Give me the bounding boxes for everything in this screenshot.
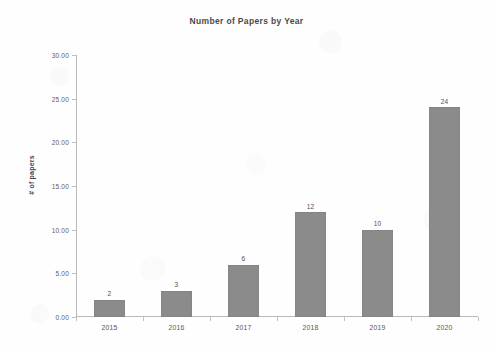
bar[interactable] <box>295 212 326 317</box>
y-axis-tick <box>72 273 76 274</box>
y-axis-line <box>76 55 77 317</box>
y-axis-tick <box>72 99 76 100</box>
y-axis-tick-label: 10.00 <box>52 226 69 233</box>
x-axis-tick <box>277 317 278 321</box>
y-axis-tick-label: 25.00 <box>52 95 69 102</box>
bar[interactable] <box>161 291 192 317</box>
y-axis-tick-label: 20.00 <box>52 139 69 146</box>
bar-group[interactable]: 3 <box>161 281 192 317</box>
bar[interactable] <box>228 265 259 317</box>
bar-value-label: 10 <box>374 220 382 227</box>
plot-area: 0.005.0010.0015.0020.0025.0030.00 236121… <box>76 55 478 317</box>
bar-value-label: 6 <box>242 255 246 262</box>
y-axis-tick-label: 15.00 <box>52 183 69 190</box>
x-axis-category-label: 2015 <box>101 324 117 331</box>
x-axis-tick <box>478 317 479 321</box>
x-axis-tick <box>344 317 345 321</box>
y-axis-tick <box>72 186 76 187</box>
bar-group[interactable]: 10 <box>362 220 393 317</box>
y-axis-tick <box>72 230 76 231</box>
y-axis-tick-label: 30.00 <box>52 52 69 59</box>
x-axis-category-label: 2019 <box>369 324 385 331</box>
bar-group[interactable]: 24 <box>429 98 460 317</box>
y-axis-tick-label: 0.00 <box>56 314 69 321</box>
x-axis-category-label: 2018 <box>302 324 318 331</box>
bar-group[interactable]: 6 <box>228 255 259 317</box>
x-axis-category-label: 2020 <box>436 324 452 331</box>
bar-group[interactable]: 12 <box>295 203 326 317</box>
x-axis-tick <box>143 317 144 321</box>
x-axis-category-label: 2017 <box>235 324 251 331</box>
x-axis-tick <box>411 317 412 321</box>
x-axis-tick <box>76 317 77 321</box>
chart-title: Number of Papers by Year <box>0 16 493 26</box>
y-axis-title: # of papers <box>28 155 35 195</box>
bar-group[interactable]: 2 <box>94 290 125 317</box>
bar-value-label: 3 <box>175 281 179 288</box>
chart-figure: Number of Papers by Year # of papers 0.0… <box>0 0 493 349</box>
y-axis-tick <box>72 142 76 143</box>
bar[interactable] <box>362 230 393 317</box>
bar-value-label: 12 <box>307 203 315 210</box>
x-axis-category-label: 2016 <box>168 324 184 331</box>
bar[interactable] <box>429 107 460 317</box>
bar-value-label: 2 <box>108 290 112 297</box>
bar-value-label: 24 <box>441 98 449 105</box>
y-axis-tick <box>72 55 76 56</box>
bar[interactable] <box>94 300 125 317</box>
y-axis-tick-label: 5.00 <box>56 270 69 277</box>
x-axis-tick <box>210 317 211 321</box>
